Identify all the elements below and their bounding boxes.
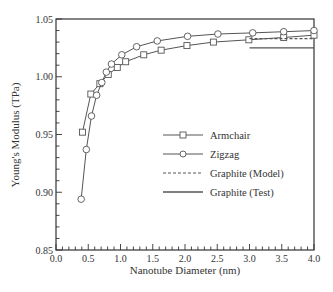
circle-marker	[93, 92, 100, 99]
legend: ArmchairZigzagGraphite (Model)Graphite (…	[163, 130, 284, 199]
square-marker	[123, 59, 129, 65]
x-tick-label: 3.5	[276, 253, 289, 264]
x-tick-label: 2.0	[179, 253, 192, 264]
x-tick-label: 3.0	[243, 253, 256, 264]
circle-marker	[133, 43, 140, 50]
square-marker	[79, 129, 85, 135]
circle-marker	[108, 61, 115, 68]
circle-marker	[184, 33, 191, 40]
circle-marker	[83, 146, 90, 153]
circle-marker	[311, 27, 318, 34]
y-tick-label: 0.95	[36, 129, 54, 140]
legend-label: Zigzag	[210, 149, 240, 160]
circle-marker	[98, 79, 105, 86]
circle-marker	[78, 196, 85, 203]
circle-marker-icon	[180, 151, 186, 157]
circle-marker	[88, 113, 95, 120]
circle-marker	[280, 28, 287, 35]
circle-marker	[249, 30, 256, 37]
x-tick-label: 1.0	[114, 253, 127, 264]
square-marker	[210, 39, 216, 45]
legend-item: Graphite (Test)	[163, 187, 274, 199]
circle-marker	[103, 69, 110, 76]
y-axis-label: Young's Modulus (TPa)	[9, 82, 22, 187]
tick-labels: 0.00.51.01.52.02.53.03.54.00.850.900.951…	[36, 14, 321, 265]
circle-marker	[118, 52, 125, 59]
chart: 0.00.51.01.52.02.53.03.54.00.850.900.951…	[0, 0, 333, 292]
y-tick-label: 1.05	[36, 14, 54, 25]
square-marker	[88, 91, 94, 97]
square-marker	[141, 52, 147, 58]
x-tick-label: 0.5	[82, 253, 95, 264]
legend-label: Armchair	[210, 130, 251, 141]
square-marker	[114, 65, 120, 71]
legend-item: Zigzag	[163, 149, 240, 160]
circle-marker	[154, 38, 161, 45]
x-tick-label: 1.5	[147, 253, 160, 264]
y-tick-label: 1.00	[36, 71, 54, 82]
y-tick-label: 0.90	[36, 187, 54, 198]
legend-label: Graphite (Test)	[210, 187, 274, 199]
circle-marker	[215, 31, 222, 38]
legend-item: Graphite (Model)	[163, 168, 284, 180]
y-tick-label: 0.85	[36, 245, 54, 256]
square-marker	[158, 47, 164, 53]
x-axis-label: Nanotube Diameter (nm)	[130, 264, 241, 277]
legend-item: Armchair	[163, 130, 251, 141]
x-tick-label: 2.5	[211, 253, 224, 264]
square-marker	[184, 43, 190, 49]
square-marker-icon	[180, 132, 186, 138]
legend-label: Graphite (Model)	[210, 168, 284, 180]
square-marker	[246, 37, 252, 43]
x-tick-label: 4.0	[308, 253, 321, 264]
